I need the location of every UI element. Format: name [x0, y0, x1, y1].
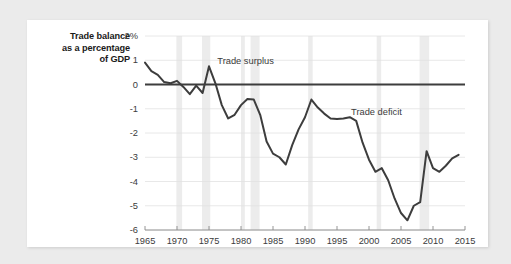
y-axis-tick-label: -5 — [112, 201, 138, 211]
annotation-trade-deficit: Trade deficit — [351, 107, 402, 117]
y-axis-title-line-2: as a percentage — [38, 43, 130, 55]
data-series-group — [145, 63, 459, 221]
x-axis-tick-label: 2015 — [445, 236, 485, 246]
y-axis-tick-label: -4 — [112, 177, 138, 187]
y-axis-tick-label: 0 — [112, 80, 138, 90]
y-axis-tick-label: -3 — [112, 152, 138, 162]
y-axis-tick-label: -6 — [112, 225, 138, 235]
y-axis-tick-label: -1 — [112, 104, 138, 114]
y-axis-tick-label: 2% — [112, 31, 138, 41]
y-axis-tick-label: 1 — [112, 55, 138, 65]
annotation-trade-surplus: Trade surplus — [217, 56, 274, 66]
y-axis-tick-label: -2 — [112, 128, 138, 138]
series-line-trade-balance — [145, 63, 459, 221]
chart-page: Trade balance as a percentage of GDP 2%1… — [0, 0, 511, 264]
gridlines-group — [145, 36, 465, 230]
